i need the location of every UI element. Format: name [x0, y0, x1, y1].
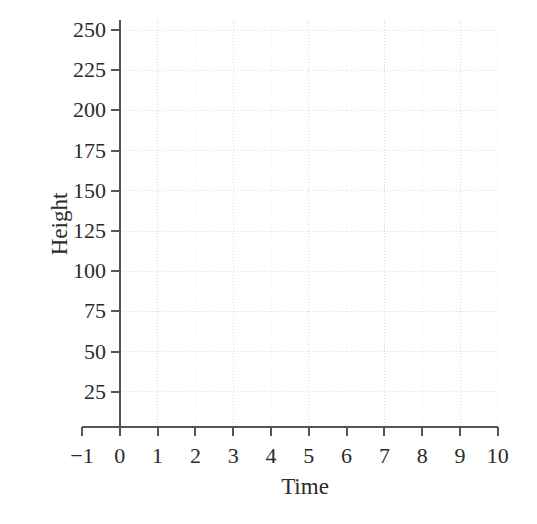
x-axis-tick-marks: [82, 427, 498, 436]
vertical-major-gridlines: [158, 20, 460, 427]
y-tick-label: 175: [73, 140, 106, 162]
axis-lines: [82, 20, 498, 427]
x-tick-label: 6: [341, 445, 352, 467]
x-tick-label: 4: [266, 445, 277, 467]
horizontal-gridlines: [120, 30, 498, 392]
y-tick-label: 200: [73, 99, 106, 121]
x-axis-title: Time: [281, 475, 329, 498]
y-tick-label: 150: [73, 180, 106, 202]
x-tick-label: −1: [70, 445, 93, 467]
x-tick-label: 5: [303, 445, 314, 467]
x-tick-label: 1: [152, 445, 163, 467]
y-tick-label: 250: [73, 19, 106, 41]
y-tick-label: 25: [84, 381, 106, 403]
x-tick-label: 10: [487, 445, 509, 467]
x-tick-label: 8: [417, 445, 428, 467]
y-axis-title: Height: [48, 192, 71, 255]
chart-container: 250225200175150125100755025 −10123456789…: [0, 0, 537, 524]
y-tick-label: 75: [84, 300, 106, 322]
y-tick-label: 50: [84, 341, 106, 363]
x-tick-label: 7: [379, 445, 390, 467]
y-tick-label: 125: [73, 220, 106, 242]
y-tick-label: 225: [73, 59, 106, 81]
x-tick-label: 0: [114, 445, 125, 467]
x-tick-label: 9: [455, 445, 466, 467]
y-axis-tick-marks: [111, 30, 120, 392]
x-tick-label: 3: [228, 445, 239, 467]
y-tick-label: 100: [73, 260, 106, 282]
x-tick-label: 2: [190, 445, 201, 467]
